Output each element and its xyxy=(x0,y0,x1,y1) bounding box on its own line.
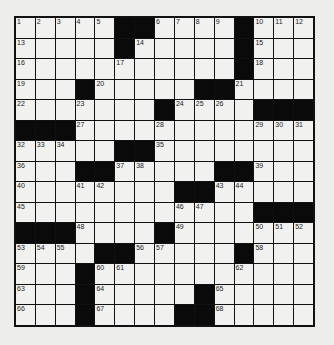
crossword-cell[interactable] xyxy=(95,100,114,120)
crossword-cell[interactable] xyxy=(235,100,254,120)
crossword-cell[interactable]: 47 xyxy=(195,203,214,223)
crossword-cell[interactable] xyxy=(175,141,194,161)
crossword-cell[interactable]: 13 xyxy=(16,39,35,59)
crossword-cell[interactable] xyxy=(36,285,55,305)
crossword-cell[interactable]: 61 xyxy=(115,264,134,284)
crossword-cell[interactable]: 14 xyxy=(135,39,154,59)
crossword-cell[interactable] xyxy=(215,141,234,161)
crossword-cell[interactable] xyxy=(135,182,154,202)
crossword-cell[interactable] xyxy=(135,59,154,79)
crossword-cell[interactable] xyxy=(56,59,75,79)
crossword-cell[interactable] xyxy=(274,244,293,264)
crossword-cell[interactable]: 22 xyxy=(16,100,35,120)
crossword-cell[interactable]: 49 xyxy=(175,223,194,243)
crossword-cell[interactable] xyxy=(235,285,254,305)
crossword-cell[interactable] xyxy=(254,305,273,325)
crossword-cell[interactable] xyxy=(215,223,234,243)
crossword-cell[interactable]: 6 xyxy=(155,18,174,38)
crossword-cell[interactable] xyxy=(175,80,194,100)
crossword-cell[interactable] xyxy=(155,59,174,79)
crossword-cell[interactable] xyxy=(294,80,313,100)
crossword-cell[interactable] xyxy=(56,203,75,223)
crossword-cell[interactable]: 68 xyxy=(215,305,234,325)
crossword-cell[interactable]: 33 xyxy=(36,141,55,161)
crossword-cell[interactable] xyxy=(56,305,75,325)
crossword-cell[interactable]: 63 xyxy=(16,285,35,305)
crossword-cell[interactable]: 53 xyxy=(16,244,35,264)
crossword-cell[interactable] xyxy=(56,100,75,120)
crossword-cell[interactable] xyxy=(175,162,194,182)
crossword-cell[interactable] xyxy=(294,162,313,182)
crossword-cell[interactable] xyxy=(155,182,174,202)
crossword-cell[interactable] xyxy=(294,285,313,305)
crossword-cell[interactable] xyxy=(294,264,313,284)
crossword-cell[interactable] xyxy=(175,59,194,79)
crossword-cell[interactable] xyxy=(36,203,55,223)
crossword-cell[interactable] xyxy=(215,244,234,264)
crossword-cell[interactable]: 17 xyxy=(115,59,134,79)
crossword-cell[interactable] xyxy=(175,264,194,284)
crossword-cell[interactable]: 10 xyxy=(254,18,273,38)
crossword-cell[interactable]: 66 xyxy=(16,305,35,325)
crossword-cell[interactable] xyxy=(294,182,313,202)
crossword-cell[interactable]: 38 xyxy=(135,162,154,182)
crossword-cell[interactable]: 45 xyxy=(16,203,35,223)
crossword-cell[interactable]: 25 xyxy=(195,100,214,120)
crossword-cell[interactable] xyxy=(155,80,174,100)
crossword-cell[interactable]: 2 xyxy=(36,18,55,38)
crossword-cell[interactable] xyxy=(235,141,254,161)
crossword-cell[interactable] xyxy=(254,141,273,161)
crossword-cell[interactable] xyxy=(135,121,154,141)
crossword-cell[interactable] xyxy=(135,305,154,325)
crossword-cell[interactable] xyxy=(56,39,75,59)
crossword-cell[interactable] xyxy=(135,223,154,243)
crossword-cell[interactable] xyxy=(215,59,234,79)
crossword-cell[interactable] xyxy=(76,244,95,264)
crossword-cell[interactable] xyxy=(274,141,293,161)
crossword-cell[interactable] xyxy=(294,39,313,59)
crossword-cell[interactable]: 31 xyxy=(294,121,313,141)
crossword-cell[interactable] xyxy=(115,285,134,305)
crossword-cell[interactable] xyxy=(274,264,293,284)
crossword-cell[interactable] xyxy=(195,141,214,161)
crossword-cell[interactable]: 37 xyxy=(115,162,134,182)
crossword-cell[interactable] xyxy=(294,305,313,325)
crossword-cell[interactable]: 57 xyxy=(155,244,174,264)
crossword-cell[interactable]: 51 xyxy=(274,223,293,243)
crossword-cell[interactable] xyxy=(195,223,214,243)
crossword-cell[interactable]: 36 xyxy=(16,162,35,182)
crossword-cell[interactable] xyxy=(95,203,114,223)
crossword-cell[interactable] xyxy=(135,264,154,284)
crossword-cell[interactable] xyxy=(56,162,75,182)
crossword-cell[interactable] xyxy=(115,182,134,202)
crossword-cell[interactable] xyxy=(135,203,154,223)
crossword-cell[interactable]: 67 xyxy=(95,305,114,325)
crossword-cell[interactable] xyxy=(135,80,154,100)
crossword-cell[interactable]: 20 xyxy=(95,80,114,100)
crossword-cell[interactable] xyxy=(254,264,273,284)
crossword-cell[interactable] xyxy=(115,223,134,243)
crossword-cell[interactable] xyxy=(215,121,234,141)
crossword-cell[interactable] xyxy=(95,141,114,161)
crossword-cell[interactable] xyxy=(175,285,194,305)
crossword-cell[interactable]: 15 xyxy=(254,39,273,59)
crossword-cell[interactable] xyxy=(274,80,293,100)
crossword-cell[interactable] xyxy=(56,285,75,305)
crossword-cell[interactable] xyxy=(56,182,75,202)
crossword-cell[interactable] xyxy=(135,285,154,305)
crossword-cell[interactable] xyxy=(36,80,55,100)
crossword-cell[interactable] xyxy=(115,100,134,120)
crossword-cell[interactable]: 26 xyxy=(215,100,234,120)
crossword-cell[interactable]: 32 xyxy=(16,141,35,161)
crossword-cell[interactable]: 54 xyxy=(36,244,55,264)
crossword-cell[interactable] xyxy=(235,121,254,141)
crossword-cell[interactable]: 8 xyxy=(195,18,214,38)
crossword-cell[interactable] xyxy=(175,39,194,59)
crossword-cell[interactable]: 56 xyxy=(135,244,154,264)
crossword-cell[interactable] xyxy=(36,39,55,59)
crossword-cell[interactable] xyxy=(115,80,134,100)
crossword-cell[interactable] xyxy=(294,141,313,161)
crossword-cell[interactable] xyxy=(155,305,174,325)
crossword-cell[interactable]: 60 xyxy=(95,264,114,284)
crossword-cell[interactable] xyxy=(76,203,95,223)
